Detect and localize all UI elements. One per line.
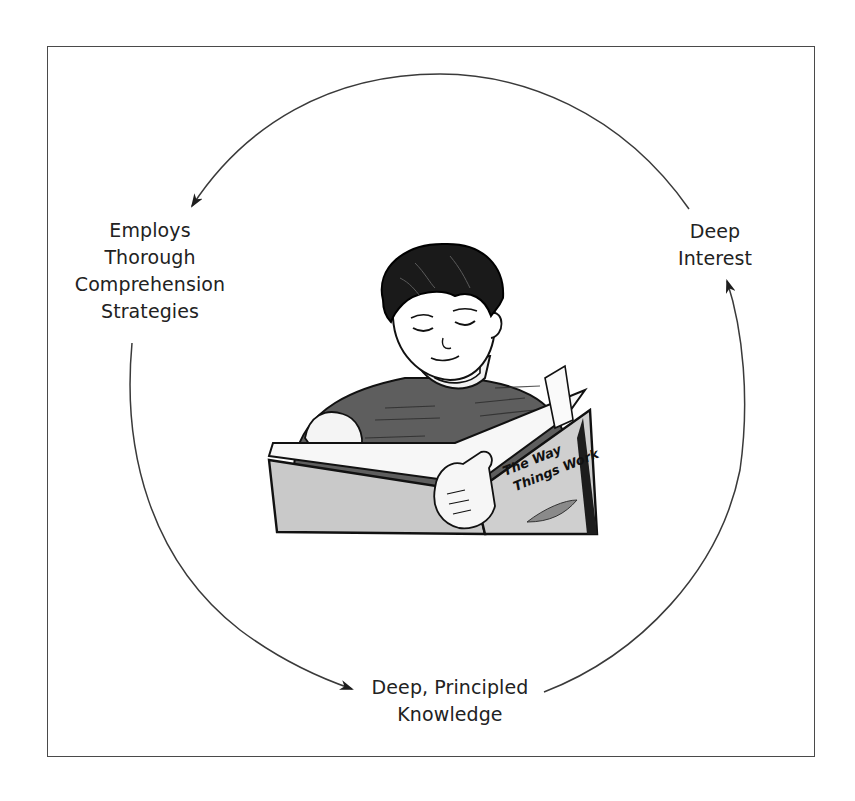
node-comprehension-strategies: Employs Thorough Comprehension Strategie… [60,217,240,325]
boy-reading-illustration: The Way Things Work [265,238,605,538]
node-deep-interest: Deep Interest [650,218,780,272]
node-label-line: Comprehension [60,271,240,298]
node-label-line: Thorough [60,244,240,271]
node-principled-knowledge: Deep, Principled Knowledge [335,674,565,728]
node-label-line: Deep, Principled [335,674,565,701]
node-label-line: Employs [60,217,240,244]
node-label-line: Strategies [60,298,240,325]
node-label-line: Knowledge [335,701,565,728]
node-label-line: Deep [650,218,780,245]
node-label-line: Interest [650,245,780,272]
